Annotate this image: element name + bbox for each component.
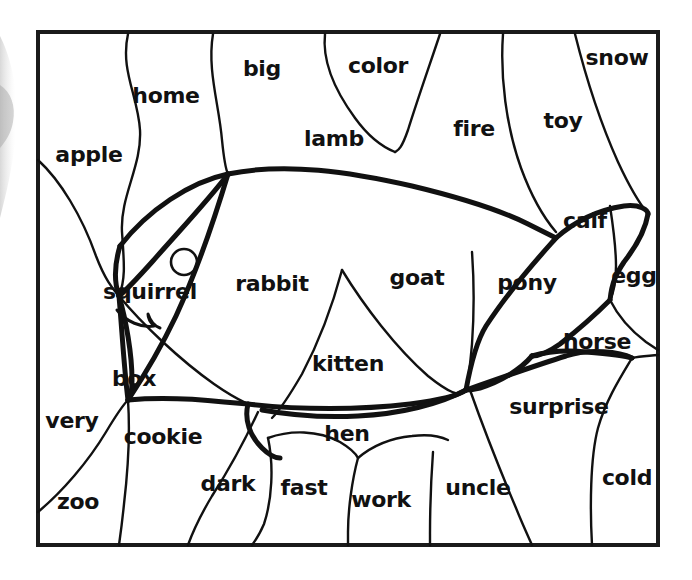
puzzle-word-calf[interactable]: calf — [563, 208, 608, 233]
puzzle-word-big[interactable]: big — [243, 56, 281, 81]
puzzle-word-kitten[interactable]: kitten — [312, 351, 384, 376]
line-zoo-cookie — [119, 400, 129, 545]
puzzle-word-zoo[interactable]: zoo — [57, 489, 99, 514]
puzzle-word-rabbit[interactable]: rabbit — [235, 271, 309, 296]
puzzle-word-box[interactable]: box — [112, 366, 156, 391]
fish-gill-line — [466, 238, 556, 390]
fish-head-thick-upper — [119, 174, 228, 296]
line-surprise-cold — [591, 358, 632, 545]
puzzle-word-lamb[interactable]: lamb — [304, 126, 364, 151]
puzzle-stage: applehomebigcolorsnowfiretoylambcalfsqui… — [0, 0, 692, 580]
line-work-uncle — [430, 452, 433, 545]
puzzle-word-fast[interactable]: fast — [281, 475, 329, 500]
puzzle-word-uncle[interactable]: uncle — [445, 475, 510, 500]
puzzle-word-goat[interactable]: goat — [389, 265, 445, 290]
puzzle-word-cold[interactable]: cold — [602, 465, 652, 490]
line-hen-work — [358, 435, 448, 458]
puzzle-word-toy[interactable]: toy — [543, 108, 582, 133]
puzzle-word-cookie[interactable]: cookie — [124, 424, 203, 449]
puzzle-word-very[interactable]: very — [45, 408, 98, 433]
puzzle-word-squirrel[interactable]: squirrel — [103, 279, 197, 304]
puzzle-word-apple[interactable]: apple — [55, 142, 122, 167]
puzzle-word-hen[interactable]: hen — [324, 421, 369, 446]
line-kitten-hen-thick — [262, 390, 466, 417]
line-home-big — [211, 34, 228, 174]
line-apple-very — [38, 160, 119, 296]
puzzle-word-egg[interactable]: egg — [611, 263, 657, 288]
puzzle-word-fire[interactable]: fire — [453, 116, 495, 141]
line-color-fire — [395, 34, 440, 152]
puzzle-word-snow[interactable]: snow — [586, 45, 649, 70]
puzzle-word-dark[interactable]: dark — [201, 471, 258, 496]
fish-eye-icon — [171, 249, 197, 275]
puzzle-word-home[interactable]: home — [132, 83, 199, 108]
puzzle-word-color[interactable]: color — [348, 53, 409, 78]
puzzle-word-work[interactable]: work — [351, 487, 412, 512]
puzzle-word-pony[interactable]: pony — [497, 270, 557, 295]
line-horse-surprise — [632, 355, 658, 358]
puzzle-word-surprise[interactable]: surprise — [509, 394, 608, 419]
line-fire-toy — [502, 34, 556, 232]
hidden-picture-puzzle: applehomebigcolorsnowfiretoylambcalfsqui… — [0, 0, 692, 580]
fish-back-outline — [120, 169, 556, 246]
puzzle-word-horse[interactable]: horse — [563, 329, 631, 354]
